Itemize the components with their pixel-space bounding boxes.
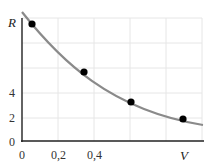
- data-point: [127, 98, 134, 105]
- data-points: [28, 20, 186, 122]
- x-tick-0: 0: [19, 148, 25, 162]
- y-axis-label: R: [7, 15, 16, 30]
- y-tick-4: 4: [9, 86, 15, 100]
- data-point: [179, 115, 186, 122]
- x-tick-0-2: 0,2: [51, 148, 66, 162]
- x-axis-label: V: [180, 148, 190, 163]
- data-point: [28, 20, 35, 27]
- y-tick-0: 0: [9, 135, 15, 149]
- y-tick-2: 2: [9, 111, 15, 125]
- data-point: [80, 68, 87, 75]
- x-tick-0-4: 0,4: [87, 148, 102, 162]
- chart: R V 4 2 0 0 0,2 0,4: [0, 0, 215, 165]
- grid: [22, 18, 202, 141]
